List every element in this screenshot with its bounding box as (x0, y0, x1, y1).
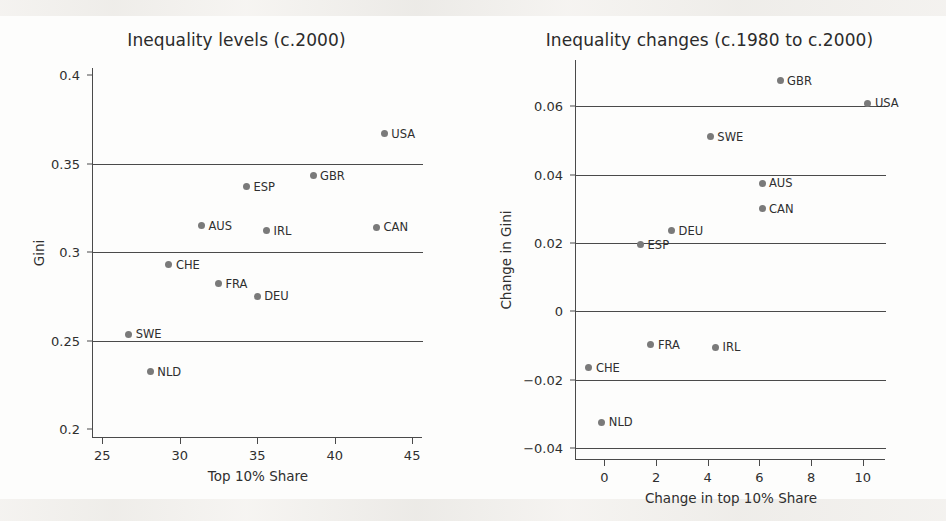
data-point-label: CAN (384, 220, 409, 234)
gridline-y (576, 311, 886, 312)
data-point-label: DEU (679, 224, 704, 238)
y-tick-mark (570, 174, 576, 175)
x-tick-mark (759, 460, 760, 466)
y-tick-label: 0.25 (20, 333, 80, 348)
data-point (254, 293, 261, 300)
data-point (707, 133, 714, 140)
data-point-label: CHE (596, 361, 620, 375)
plot-area-right: −0.04−0.0200.020.040.060246810Change in … (575, 60, 885, 460)
data-point (125, 331, 132, 338)
data-point-label: CAN (769, 202, 794, 216)
data-point-label: GBR (320, 169, 345, 183)
data-point-label: GBR (787, 74, 812, 88)
x-tick-mark (335, 438, 336, 444)
y-tick-label: 0.35 (20, 156, 80, 171)
x-axis-title: Change in top 10% Share (645, 490, 817, 506)
data-point-label: ESP (253, 180, 275, 194)
gridline-y (576, 448, 886, 449)
panel-inequality-changes: Inequality changes (c.1980 to c.2000) −0… (473, 0, 946, 521)
data-point-label: DEU (264, 289, 289, 303)
data-point-label: FRA (658, 338, 680, 352)
x-tick-mark (102, 438, 103, 444)
x-tick-label: 30 (171, 448, 188, 463)
x-tick-label: 35 (249, 448, 266, 463)
data-point-label: AUS (769, 176, 793, 190)
x-tick-label: 6 (755, 470, 763, 485)
data-point (777, 77, 784, 84)
data-point (381, 130, 388, 137)
figure-scatter-pair: Inequality levels (c.2000) 0.20.250.30.3… (0, 0, 946, 521)
y-tick-label: −0.04 (503, 441, 563, 456)
y-tick-mark (570, 311, 576, 312)
data-point-label: USA (875, 96, 899, 110)
x-tick-mark (180, 438, 181, 444)
x-tick-mark (257, 438, 258, 444)
data-point (165, 261, 172, 268)
y-tick-mark (570, 379, 576, 380)
data-point (215, 280, 222, 287)
y-tick-mark (87, 252, 93, 253)
x-tick-mark (412, 438, 413, 444)
x-tick-mark (708, 460, 709, 466)
y-tick-mark (87, 340, 93, 341)
data-point-label: IRL (274, 224, 292, 238)
data-point-label: NLD (609, 415, 633, 429)
data-point (310, 172, 317, 179)
data-point-label: ESP (648, 238, 670, 252)
y-tick-mark (570, 448, 576, 449)
y-axis-title: Gini (31, 240, 47, 267)
data-point-label: AUS (208, 219, 232, 233)
gridline-y (576, 380, 886, 381)
y-tick-mark (87, 429, 93, 430)
gridline-y (576, 243, 886, 244)
panel-left-title: Inequality levels (c.2000) (0, 30, 473, 50)
plot-area-left: 0.20.250.30.350.42530354045Top 10% Share… (92, 68, 422, 438)
data-point (712, 344, 719, 351)
data-point (147, 368, 154, 375)
x-tick-label: 2 (652, 470, 660, 485)
y-tick-label: 0.4 (20, 68, 80, 83)
panel-right-title: Inequality changes (c.1980 to c.2000) (473, 30, 946, 50)
x-tick-mark (656, 460, 657, 466)
x-tick-mark (863, 460, 864, 466)
data-point (759, 205, 766, 212)
y-tick-label: 0.2 (20, 422, 80, 437)
data-point-label: SWE (136, 327, 162, 341)
gridline-y (93, 164, 423, 165)
data-point (373, 224, 380, 231)
y-tick-label: 0.3 (20, 245, 80, 260)
data-point-label: IRL (723, 340, 741, 354)
y-tick-mark (570, 106, 576, 107)
y-tick-label: 0.04 (503, 167, 563, 182)
data-point (585, 364, 592, 371)
x-tick-label: 0 (600, 470, 608, 485)
data-point (759, 180, 766, 187)
data-point (198, 222, 205, 229)
data-point-label: FRA (225, 277, 247, 291)
data-point (263, 227, 270, 234)
gridline-y (576, 106, 886, 107)
data-point (637, 241, 644, 248)
panel-inequality-levels: Inequality levels (c.2000) 0.20.250.30.3… (0, 0, 473, 521)
x-tick-label: 45 (404, 448, 421, 463)
data-point (668, 227, 675, 234)
y-tick-label: −0.02 (503, 372, 563, 387)
y-tick-mark (87, 75, 93, 76)
data-point (647, 341, 654, 348)
data-point-label: SWE (717, 130, 743, 144)
data-point (598, 419, 605, 426)
x-tick-label: 25 (94, 448, 111, 463)
x-tick-mark (811, 460, 812, 466)
y-tick-label: 0.06 (503, 99, 563, 114)
y-axis-title: Change in Gini (498, 210, 514, 309)
x-tick-label: 8 (807, 470, 815, 485)
data-point-label: USA (391, 127, 415, 141)
x-axis-title: Top 10% Share (208, 468, 308, 484)
data-point-label: CHE (176, 258, 200, 272)
gridline-y (93, 252, 423, 253)
x-tick-label: 4 (704, 470, 712, 485)
x-tick-label: 10 (854, 470, 871, 485)
data-point-label: NLD (157, 365, 181, 379)
data-point (243, 183, 250, 190)
x-tick-mark (604, 460, 605, 466)
